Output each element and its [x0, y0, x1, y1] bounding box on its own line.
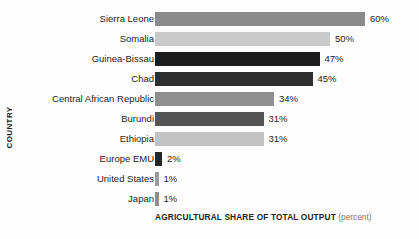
bar-value-label: 50%: [335, 32, 354, 46]
bar-track: 1%: [155, 172, 410, 186]
bar-value-label: 60%: [370, 12, 389, 26]
bar-value-label: 31%: [269, 132, 288, 146]
bar-value-label: 2%: [167, 152, 181, 166]
bar-category-label: Japan: [128, 189, 154, 209]
bar-row: Japan1%: [16, 189, 416, 209]
x-axis-title: AGRICULTURAL SHARE OF TOTAL OUTPUT (perc…: [155, 212, 372, 222]
bar-track: 60%: [155, 12, 410, 26]
bar-row: Sierra Leone60%: [16, 9, 416, 29]
bar-category-label: Burundi: [121, 109, 154, 129]
bar-fill[interactable]: [155, 12, 365, 26]
bar-category-label: Sierra Leone: [100, 9, 154, 29]
bar-value-label: 34%: [279, 92, 298, 106]
bar-value-label: 1%: [164, 192, 178, 206]
bar-category-label: United States: [97, 169, 154, 189]
bar-row: Central African Republic34%: [16, 89, 416, 109]
bar-fill[interactable]: [155, 72, 313, 86]
bar-row: Burundi31%: [16, 109, 416, 129]
bar-fill[interactable]: [155, 32, 330, 46]
bar-value-label: 45%: [318, 72, 337, 86]
bar-track: 1%: [155, 192, 410, 206]
bar-value-label: 47%: [325, 52, 344, 66]
bar-track: 2%: [155, 152, 410, 166]
bar-track: 34%: [155, 92, 410, 106]
bar-track: 45%: [155, 72, 410, 86]
bar-track: 31%: [155, 112, 410, 126]
bar-category-label: Central African Republic: [52, 89, 154, 109]
bar-track: 31%: [155, 132, 410, 146]
bar-category-label: Chad: [131, 69, 154, 89]
bar-fill[interactable]: [155, 192, 159, 206]
bar-fill[interactable]: [155, 152, 162, 166]
bar-row: Guinea-Bissau47%: [16, 49, 416, 69]
y-axis-title-text: COUNTRY: [5, 106, 14, 148]
bar-row: United States1%: [16, 169, 416, 189]
y-axis-title: COUNTRY: [2, 82, 16, 172]
bar-value-label: 1%: [164, 172, 178, 186]
bar-row: Ethiopia31%: [16, 129, 416, 149]
bar-value-label: 31%: [269, 112, 288, 126]
bar-fill[interactable]: [155, 172, 159, 186]
bar-row: Somalia50%: [16, 29, 416, 49]
bar-row: Chad45%: [16, 69, 416, 89]
bar-track: 47%: [155, 52, 410, 66]
bar-row: Europe EMU2%: [16, 149, 416, 169]
x-axis-title-text: AGRICULTURAL SHARE OF TOTAL OUTPUT: [155, 212, 336, 222]
bar-fill[interactable]: [155, 132, 264, 146]
plot-area: Sierra Leone60%Somalia50%Guinea-Bissau47…: [16, 9, 416, 205]
bar-category-label: Europe EMU: [100, 149, 154, 169]
x-axis-unit-text: (percent): [338, 212, 371, 222]
bar-category-label: Ethiopia: [120, 129, 154, 149]
bar-track: 50%: [155, 32, 410, 46]
bar-fill[interactable]: [155, 112, 264, 126]
bar-category-label: Guinea-Bissau: [92, 49, 154, 69]
bar-category-label: Somalia: [120, 29, 154, 49]
bar-chart: COUNTRY Sierra Leone60%Somalia50%Guinea-…: [0, 0, 419, 239]
bar-fill[interactable]: [155, 52, 320, 66]
bar-fill[interactable]: [155, 92, 274, 106]
